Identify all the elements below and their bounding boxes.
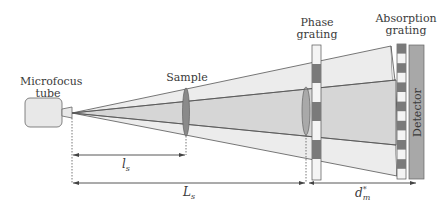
microfocus-tube <box>25 98 62 127</box>
microfocus-tube-label: Microfocus tube <box>20 76 76 100</box>
tube-nozzle <box>62 107 72 118</box>
detector-label: Detector <box>411 83 424 143</box>
sample-label: Sample <box>163 72 211 84</box>
sample-projection <box>302 87 310 135</box>
dm-label: d*m <box>355 185 370 202</box>
ls-label: ls <box>122 157 130 173</box>
label-line: tube <box>20 88 76 100</box>
phase-grating <box>312 45 321 180</box>
talbot-interferometer-diagram: Microfocus tube Sample Phase grating Abs… <box>0 0 447 210</box>
label-line: grating <box>293 29 341 41</box>
Ls-label: Ls <box>183 185 195 201</box>
absorption-grating <box>397 44 406 179</box>
phase-grating-label: Phase grating <box>293 17 341 41</box>
label-line: grating <box>370 25 442 37</box>
sample-object <box>183 88 190 136</box>
absorption-grating-label: Absorption grating <box>370 13 442 37</box>
